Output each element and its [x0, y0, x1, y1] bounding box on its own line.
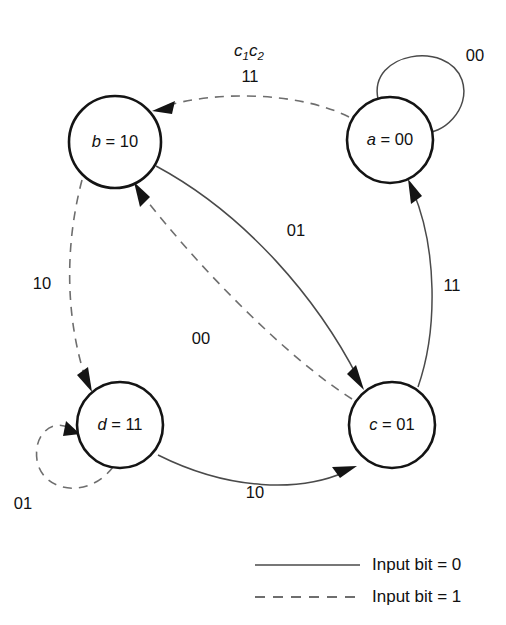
edge-a-to-b-path: [163, 96, 349, 117]
edge-b-to-d-path: [70, 180, 86, 380]
edge-d-to-c-path: [158, 455, 345, 485]
edge-c-to-b-arrowhead: [134, 182, 150, 207]
state-node-b[interactable]: b = 10: [69, 96, 161, 188]
state-node-b-value: 10: [120, 132, 138, 150]
state-node-a[interactable]: a = 00: [347, 97, 433, 183]
state-node-c-value: 01: [396, 415, 414, 433]
edge-label-a-to-b: 11: [241, 67, 258, 85]
edge-c-to-a-arrowhead: [408, 179, 422, 204]
header-c1c2: c1c2: [234, 41, 264, 62]
legend-solid-label: Input bit = 0: [372, 555, 461, 574]
legend-dashed-label: Input bit = 1: [372, 587, 461, 606]
header-c2-sub: 2: [257, 50, 265, 62]
edge-label-a-self: 00: [466, 46, 484, 64]
state-node-b-name: b: [92, 132, 101, 150]
edge-b-to-c-arrowhead: [347, 365, 364, 390]
state-node-a-equals: =: [376, 130, 395, 148]
edge-b-to-d: 10: [33, 180, 92, 392]
legend: Input bit = 0 Input bit = 1: [255, 555, 461, 606]
state-node-d-equals: =: [107, 415, 126, 433]
edge-a-to-b-arrowhead: [152, 101, 175, 114]
state-node-a-label: a = 00: [367, 130, 413, 148]
edge-label-b-to-c: 01: [287, 221, 305, 239]
state-transition-diagram: 00 11 01 00 10 11 10 01: [0, 0, 506, 625]
state-node-c-equals: =: [378, 415, 397, 433]
legend-row-dashed: Input bit = 1: [255, 587, 461, 606]
edge-label-d-to-c: 10: [246, 483, 264, 501]
edge-label-c-to-a: 11: [443, 276, 460, 294]
edge-c-to-a-path: [413, 191, 432, 387]
header-input-label: c1c2: [234, 41, 264, 62]
state-node-b-label: b = 10: [92, 132, 138, 150]
state-node-d-label: d = 11: [97, 415, 142, 433]
state-node-d-value: 11: [125, 415, 142, 433]
edge-c-to-b-path: [141, 193, 352, 399]
state-node-a-value: 00: [395, 130, 413, 148]
edge-label-d-self: 01: [14, 494, 32, 512]
state-node-b-equals: =: [101, 132, 120, 150]
edge-label-b-to-d: 10: [33, 274, 51, 292]
edge-c-to-b: 00: [134, 182, 352, 399]
state-node-c-label: c = 01: [369, 415, 414, 433]
state-diagram-container: 00 11 01 00 10 11 10 01: [0, 0, 506, 625]
edge-label-c-to-b: 00: [192, 329, 210, 347]
edge-d-to-c: 10: [158, 455, 357, 501]
edge-a-to-b: 11: [152, 67, 349, 117]
legend-row-solid: Input bit = 0: [255, 555, 461, 574]
edge-b-to-d-arrowhead: [77, 367, 92, 392]
state-node-a-name: a: [367, 130, 376, 148]
edge-c-to-a: 11: [408, 179, 461, 387]
state-node-c[interactable]: c = 01: [349, 382, 435, 468]
edge-b-to-c-path: [156, 166, 358, 378]
state-node-d[interactable]: d = 11: [77, 382, 163, 468]
edge-b-to-c: 01: [156, 166, 364, 390]
